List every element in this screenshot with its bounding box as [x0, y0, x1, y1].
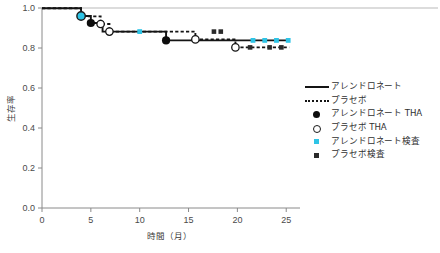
marker-cyan-square — [137, 29, 142, 34]
marker-dark-square — [279, 45, 284, 50]
y-axis-title: 生存率 — [6, 95, 16, 122]
marker-dark-square — [248, 45, 253, 50]
marker-cyan-square — [274, 38, 279, 43]
x-axis-title: 時間（月） — [147, 231, 192, 241]
marker-cyan-square — [251, 38, 256, 43]
marker-first-event-highlight — [77, 12, 85, 20]
marker-cyan-square — [262, 38, 267, 43]
x-tick-label: 25 — [281, 215, 291, 225]
marker-open-circle — [192, 36, 199, 43]
legend-label: プラセボ — [331, 94, 367, 107]
legend-item-placebo-tha: プラセボ THA — [303, 121, 438, 135]
y-tick-label: 0.0 — [22, 203, 35, 213]
x-tick-label: 5 — [88, 215, 93, 225]
marker-cyan-square — [286, 38, 291, 43]
marker-open-circle — [106, 28, 113, 35]
y-tick-label: 1.0 — [22, 3, 35, 13]
x-tick-label: 15 — [184, 215, 194, 225]
dotted-line-icon — [303, 94, 331, 107]
marker-dark-square — [218, 29, 223, 34]
filled-circle-icon — [303, 107, 331, 120]
marker-dark-square — [212, 29, 217, 34]
marker-open-circle — [232, 44, 239, 51]
legend-label: アレンドロネート検査 — [331, 135, 420, 148]
y-tick-label: 0.4 — [22, 123, 35, 133]
legend-item-placebo-exam: プラセボ検査 — [303, 148, 438, 162]
legend-label: プラセボ THA — [331, 121, 387, 134]
marker-filled-circle — [87, 19, 95, 27]
open-circle-icon — [303, 121, 331, 134]
cyan-square-icon — [303, 135, 331, 148]
legend-label: プラセボ検査 — [331, 148, 384, 161]
chart-root: 0.00.20.40.60.81.00510152025時間（月）生存率 アレン… — [0, 0, 440, 253]
y-tick-label: 0.2 — [22, 163, 35, 173]
legend-label: アレンドロネート — [331, 80, 402, 93]
legend-item-placebo: プラセボ — [303, 94, 438, 108]
dark-square-icon — [303, 148, 331, 161]
solid-line-icon — [303, 80, 331, 93]
legend-item-alendronate-exam: アレンドロネート検査 — [303, 134, 438, 148]
marker-open-circle — [97, 20, 104, 27]
legend-item-alendronate-tha: アレンドロネート THA — [303, 107, 438, 121]
y-tick-label: 0.6 — [22, 83, 35, 93]
y-tick-label: 0.8 — [22, 43, 35, 53]
legend-item-alendronate: アレンドロネート — [303, 80, 438, 94]
chart-legend: アレンドロネート プラセボ アレンドロネート THA プラセボ THA アレンド… — [303, 80, 438, 162]
marker-filled-circle — [162, 36, 170, 44]
x-tick-label: 20 — [232, 215, 242, 225]
x-tick-label: 10 — [135, 215, 145, 225]
x-tick-label: 0 — [39, 215, 44, 225]
legend-label: アレンドロネート THA — [331, 107, 422, 120]
marker-dark-square — [267, 45, 272, 50]
